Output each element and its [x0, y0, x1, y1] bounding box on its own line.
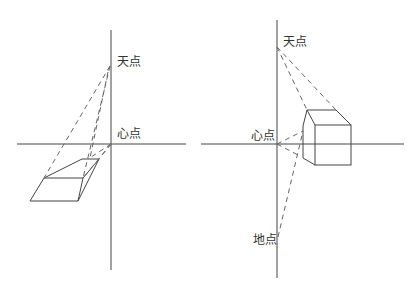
left-sky-point-label: 天点: [117, 56, 141, 68]
left-slanted-box: [30, 159, 99, 201]
left-diagram: [17, 30, 186, 270]
right-ground-point-label: 地点: [253, 234, 277, 246]
perspective-diagrams: [0, 0, 416, 296]
right-cube: [303, 110, 351, 165]
right-sky-point-label: 天点: [283, 36, 307, 48]
left-center-point-label: 心点: [117, 128, 141, 140]
right-diagram: [201, 20, 404, 278]
right-center-point-label: 心点: [251, 130, 275, 142]
right-dashed-guides: [277, 47, 336, 237]
